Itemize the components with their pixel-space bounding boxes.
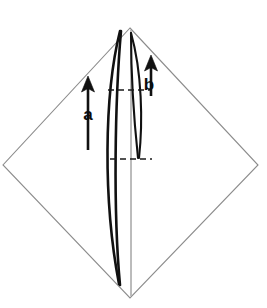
- outer-right-curve: [116, 31, 121, 285]
- arrow-b-label: b: [144, 75, 154, 94]
- arrow-a-label: a: [83, 105, 93, 124]
- figure-container: a b: [0, 0, 267, 308]
- diagram-canvas: a b: [0, 0, 267, 308]
